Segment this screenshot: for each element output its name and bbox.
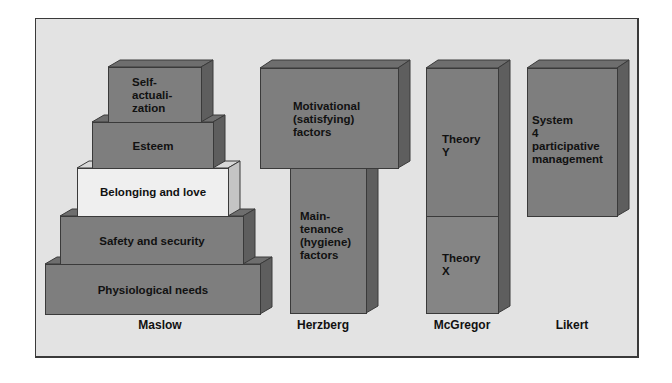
herzberg-maintenance-block: Main- tenance (hygiene) factors	[290, 168, 367, 314]
block-label-line: factors	[293, 126, 360, 139]
block-label-line: 4	[532, 127, 603, 140]
maslow-safety-security-block: Safety and security	[60, 216, 244, 265]
block-label-line: participative	[532, 140, 603, 153]
column-label-mcgregor: McGregor	[412, 318, 512, 332]
block-label-line: System	[532, 114, 603, 127]
block-label: Safety and security	[61, 235, 243, 248]
column-label-maslow: Maslow	[110, 318, 210, 332]
block-label-line: Self-	[132, 76, 172, 89]
maslow-physiological-needs-block: Physiological needs	[45, 264, 261, 315]
mcgregor-theory-y-block: Theory Y	[426, 68, 499, 217]
block-label-line: Theory	[442, 252, 480, 265]
block-label: Esteem	[93, 140, 213, 153]
block-label-line: (satisfying)	[293, 113, 360, 126]
herzberg-motivational-block: Motivational (satisfying) factors	[260, 68, 399, 169]
block-label-line: tenance	[300, 223, 351, 236]
block-label-line: management	[532, 153, 603, 166]
block-label-line: X	[442, 265, 480, 278]
block-label-line: zation	[132, 102, 172, 115]
block-label: Belonging and love	[78, 186, 228, 199]
block-label-line: factors	[300, 249, 351, 262]
mcgregor-theory-x-block: Theory X	[426, 216, 499, 314]
maslow-belonging-love-block: Belonging and love	[77, 168, 229, 217]
column-label-likert: Likert	[522, 318, 622, 332]
block-label: Physiological needs	[46, 284, 260, 297]
block-label-line: Y	[442, 146, 480, 159]
maslow-esteem-block: Esteem	[92, 122, 214, 169]
maslow-self-actualization-block: Self- actuali- zation	[108, 67, 202, 123]
block-label-line: (hygiene)	[300, 236, 351, 249]
block-label-line: Main-	[300, 210, 351, 223]
column-label-herzberg: Herzberg	[273, 318, 373, 332]
block-label-line: actuali-	[132, 89, 172, 102]
block-label-line: Motivational	[293, 100, 360, 113]
block-label-line: Theory	[442, 133, 480, 146]
likert-system4-block: System 4 participative management	[527, 68, 618, 217]
